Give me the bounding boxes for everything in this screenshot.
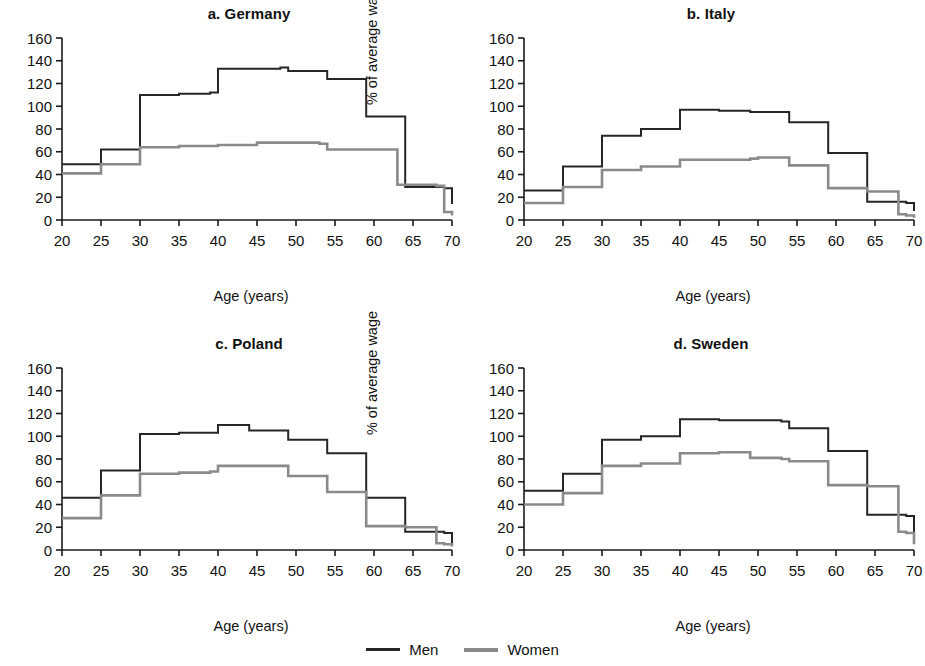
y-tick-label: 20	[497, 519, 514, 536]
x-tick-label: 55	[327, 232, 344, 249]
y-tick-label: 100	[27, 428, 52, 445]
x-tick-label: 35	[171, 232, 188, 249]
legend-item-women: Women	[464, 641, 558, 658]
y-tick-label: 100	[27, 98, 52, 115]
plot-area-sweden: % of average wage 0204060801001201401602…	[462, 354, 924, 604]
x-tick-label: 50	[288, 562, 305, 579]
x-tick-label: 25	[555, 562, 572, 579]
y-axis-label-italy: % of average wage	[364, 0, 384, 148]
x-tick-label: 50	[750, 232, 767, 249]
y-tick-label: 100	[489, 98, 514, 115]
chart-svg-sweden: 0204060801001201401602025303540455055606…	[462, 354, 924, 604]
y-tick-label: 160	[27, 360, 52, 377]
chart-legend: Men Women	[0, 641, 925, 658]
x-tick-label: 55	[327, 562, 344, 579]
x-tick-label: 65	[405, 232, 422, 249]
x-tick-label: 70	[906, 562, 923, 579]
legend-label-women: Women	[507, 641, 558, 658]
x-tick-label: 55	[789, 232, 806, 249]
y-tick-label: 120	[27, 75, 52, 92]
x-tick-label: 45	[249, 562, 266, 579]
x-tick-label: 40	[672, 232, 689, 249]
x-tick-label: 50	[288, 232, 305, 249]
legend-swatch-women-icon	[464, 648, 498, 652]
y-tick-label: 80	[497, 451, 514, 468]
x-tick-label: 60	[828, 232, 845, 249]
legend-item-men: Men	[366, 641, 438, 658]
y-tick-label: 140	[27, 52, 52, 69]
x-tick-label: 20	[54, 232, 71, 249]
x-tick-label: 35	[633, 562, 650, 579]
plot-area-germany: % of average wage 0204060801001201401602…	[0, 24, 462, 274]
series-line-women	[524, 452, 914, 544]
panel-title-sweden: d. Sweden	[462, 334, 924, 354]
x-tick-label: 25	[555, 232, 572, 249]
y-tick-label: 100	[489, 428, 514, 445]
y-tick-label: 0	[44, 542, 52, 559]
x-tick-label: 65	[405, 562, 422, 579]
y-tick-label: 120	[489, 405, 514, 422]
legend-label-men: Men	[409, 641, 438, 658]
panel-title-poland: c. Poland	[0, 334, 462, 354]
y-tick-label: 40	[35, 496, 52, 513]
x-tick-label: 40	[672, 562, 689, 579]
x-tick-label: 70	[906, 232, 923, 249]
x-tick-label: 30	[594, 562, 611, 579]
y-tick-label: 160	[489, 360, 514, 377]
y-tick-label: 60	[35, 143, 52, 160]
x-tick-label: 70	[444, 562, 461, 579]
panel-sweden: d. Sweden % of average wage 020406080100…	[462, 330, 924, 625]
y-tick-label: 60	[497, 143, 514, 160]
y-tick-label: 0	[506, 212, 514, 229]
y-tick-label: 160	[489, 30, 514, 47]
chart-svg-germany: 0204060801001201401602025303540455055606…	[0, 24, 462, 274]
y-tick-label: 140	[489, 382, 514, 399]
panel-germany: a. Germany % of average wage 02040608010…	[0, 0, 462, 330]
x-tick-label: 35	[171, 562, 188, 579]
y-tick-label: 80	[35, 451, 52, 468]
y-tick-label: 60	[497, 473, 514, 490]
x-tick-label: 60	[828, 562, 845, 579]
y-tick-label: 160	[27, 30, 52, 47]
chart-svg-italy: 0204060801001201401602025303540455055606…	[462, 24, 924, 274]
figure-wage-profiles: a. Germany % of average wage 02040608010…	[0, 0, 925, 666]
y-tick-label: 20	[497, 189, 514, 206]
x-tick-label: 25	[93, 232, 110, 249]
panel-title-italy: b. Italy	[462, 4, 924, 24]
panel-poland: c. Poland % of average wage 020406080100…	[0, 330, 462, 625]
y-tick-label: 40	[497, 496, 514, 513]
y-axis-label-sweden: % of average wage	[364, 268, 384, 478]
y-tick-label: 20	[35, 519, 52, 536]
y-tick-label: 0	[506, 542, 514, 559]
x-axis-label-germany: Age (years)	[0, 288, 462, 304]
y-tick-label: 40	[497, 166, 514, 183]
x-tick-label: 35	[633, 232, 650, 249]
x-tick-label: 30	[594, 232, 611, 249]
y-tick-label: 80	[497, 121, 514, 138]
y-tick-label: 40	[35, 166, 52, 183]
y-tick-label: 20	[35, 189, 52, 206]
panel-italy: b. Italy % of average wage 0204060801001…	[462, 0, 924, 330]
x-tick-label: 25	[93, 562, 110, 579]
x-tick-label: 20	[516, 232, 533, 249]
x-axis-label-poland: Age (years)	[0, 618, 462, 634]
y-tick-label: 0	[44, 212, 52, 229]
plot-area-italy: % of average wage 0204060801001201401602…	[462, 24, 924, 274]
x-tick-label: 20	[54, 562, 71, 579]
x-tick-label: 45	[711, 232, 728, 249]
x-tick-label: 50	[750, 562, 767, 579]
x-tick-label: 30	[132, 562, 149, 579]
series-line-women	[62, 143, 452, 216]
plot-area-poland: % of average wage 0204060801001201401602…	[0, 354, 462, 604]
x-axis-label-italy: Age (years)	[462, 288, 924, 304]
x-tick-label: 30	[132, 232, 149, 249]
x-tick-label: 45	[711, 562, 728, 579]
x-tick-label: 65	[867, 232, 884, 249]
x-tick-label: 70	[444, 232, 461, 249]
x-tick-label: 60	[366, 232, 383, 249]
x-tick-label: 65	[867, 562, 884, 579]
y-tick-label: 140	[489, 52, 514, 69]
chart-svg-poland: 0204060801001201401602025303540455055606…	[0, 354, 462, 604]
series-line-men	[62, 68, 452, 205]
series-line-women	[62, 466, 452, 547]
